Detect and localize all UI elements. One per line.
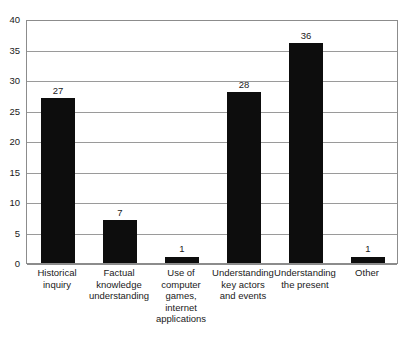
bar-value-label: 1 bbox=[179, 244, 184, 254]
x-category-label-line: Use of bbox=[150, 267, 212, 279]
bar-slot: 1 bbox=[337, 21, 399, 263]
bar[interactable] bbox=[41, 98, 75, 263]
x-category-label-line: knowledge bbox=[88, 279, 150, 291]
x-category-label-line: Understanding bbox=[274, 267, 336, 279]
x-axis: HistoricalinquiryFactualknowledgeunderst… bbox=[26, 267, 398, 340]
bar-value-label: 36 bbox=[301, 31, 312, 41]
x-category-label-line: and events bbox=[212, 290, 274, 302]
y-tick-label: 20 bbox=[9, 137, 20, 147]
y-axis: 0510152025303540 bbox=[0, 20, 24, 264]
y-tick-label: 0 bbox=[15, 259, 20, 269]
bar-slot: 36 bbox=[275, 21, 337, 263]
x-category-label-line: games, bbox=[150, 290, 212, 302]
x-category-label-line: internet bbox=[150, 302, 212, 314]
x-category-label-line: computer bbox=[150, 279, 212, 291]
x-category-label-line: Historical bbox=[26, 267, 88, 279]
x-category-label: Use ofcomputergames,internetapplications bbox=[150, 267, 212, 325]
y-tick-label: 35 bbox=[9, 46, 20, 56]
y-tick-label: 15 bbox=[9, 168, 20, 178]
x-category-label: Understandingkey actorsand events bbox=[212, 267, 274, 302]
bar-value-label: 7 bbox=[117, 208, 122, 218]
axis-baseline bbox=[27, 264, 397, 265]
x-category-label-line: Other bbox=[336, 267, 398, 279]
bar[interactable] bbox=[227, 92, 261, 263]
y-tick-label: 25 bbox=[9, 107, 20, 117]
y-tick-label: 10 bbox=[9, 198, 20, 208]
x-category-label: Understandingthe present bbox=[274, 267, 336, 290]
y-tick-label: 5 bbox=[15, 229, 20, 239]
bar-chart: 0510152025303540 277128361 Historicalinq… bbox=[0, 0, 413, 340]
x-category-label: Factualknowledgeunderstanding bbox=[88, 267, 150, 302]
x-category-label-line: Factual bbox=[88, 267, 150, 279]
bar[interactable] bbox=[103, 220, 137, 263]
bar[interactable] bbox=[165, 257, 199, 263]
bar-value-label: 27 bbox=[53, 86, 64, 96]
x-category-label: Historicalinquiry bbox=[26, 267, 88, 290]
y-tick-label: 40 bbox=[9, 15, 20, 25]
x-category-label-line: applications bbox=[150, 313, 212, 325]
bar[interactable] bbox=[289, 43, 323, 263]
x-category-label-line: inquiry bbox=[26, 279, 88, 291]
y-tick-label: 30 bbox=[9, 76, 20, 86]
bar-slot: 7 bbox=[89, 21, 151, 263]
bar-value-label: 1 bbox=[365, 244, 370, 254]
x-category-label: Other bbox=[336, 267, 398, 279]
bar-slot: 27 bbox=[27, 21, 89, 263]
bar-slot: 28 bbox=[213, 21, 275, 263]
bar-value-label: 28 bbox=[239, 80, 250, 90]
plot-area: 277128361 bbox=[26, 20, 398, 264]
x-category-label-line: the present bbox=[274, 279, 336, 291]
x-category-label-line: Understanding bbox=[212, 267, 274, 279]
x-category-label-line: understanding bbox=[88, 290, 150, 302]
bar-slot: 1 bbox=[151, 21, 213, 263]
x-category-label-line: key actors bbox=[212, 279, 274, 291]
bar[interactable] bbox=[351, 257, 385, 263]
